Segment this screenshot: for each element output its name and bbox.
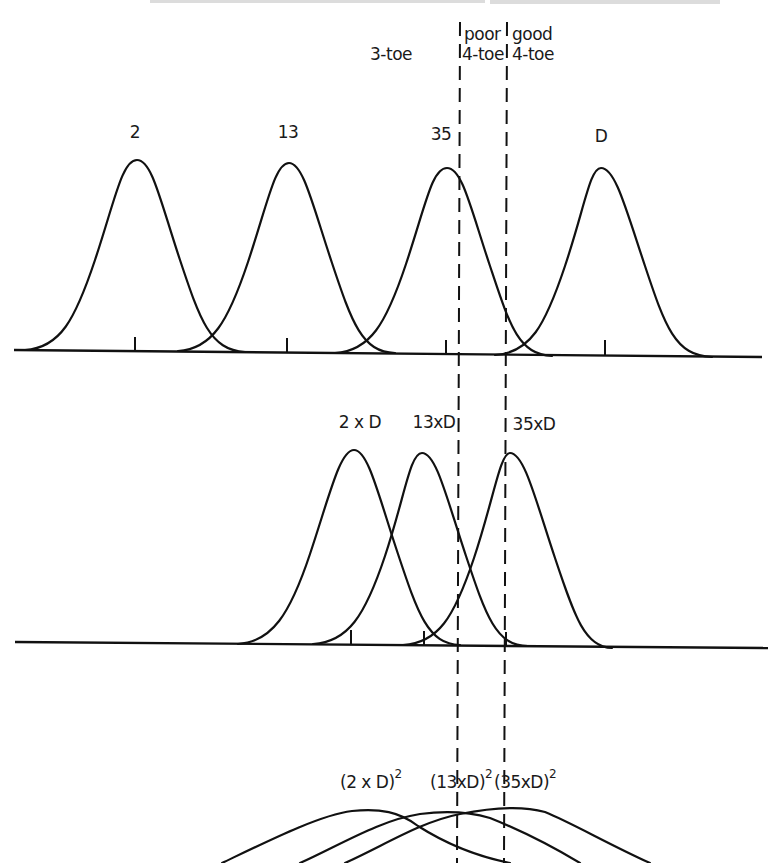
label-good-4-toe: 4-toe	[512, 44, 554, 64]
panel-middle: 2 x D 13xD 35xD	[15, 412, 768, 648]
label-35xD: 35xD	[513, 414, 556, 434]
curve-35xD	[403, 453, 612, 648]
curve-2xD-squared	[222, 810, 510, 863]
label-strain-D: D	[595, 126, 608, 146]
axis-top	[14, 350, 762, 357]
label-good: good	[512, 24, 552, 44]
curve-strain-35	[335, 168, 552, 356]
cropped-caption	[150, 0, 720, 4]
curve-strain-2	[25, 160, 245, 352]
curve-2xD	[238, 450, 460, 645]
threshold-line-2	[504, 22, 507, 863]
label-strain-35: 35	[431, 124, 452, 144]
panel-bottom: (2 x D)2 (13xD)2 (35xD)2	[222, 767, 650, 863]
label-strain-13: 13	[278, 122, 299, 142]
label-3-toe: 3-toe	[370, 44, 412, 64]
label-poor-4-toe: 4-toe	[462, 44, 504, 64]
curve-35xD-squared	[345, 808, 650, 863]
label-13xD: 13xD	[413, 412, 456, 432]
label-13xD-squared: (13xD)2	[430, 767, 492, 792]
threshold-line-1	[457, 22, 460, 863]
curve-strain-13	[178, 163, 395, 353]
label-2xD-squared: (2 x D)2	[340, 767, 402, 792]
label-poor: poor	[464, 24, 501, 44]
axis-middle	[15, 642, 768, 648]
label-2xD: 2 x D	[339, 412, 382, 432]
panel-top: 2 13 35 D	[14, 122, 762, 357]
threshold-labels: 3-toe poor 4-toe good 4-toe	[370, 24, 554, 64]
curve-strain-D	[495, 168, 712, 357]
label-strain-2: 2	[130, 122, 140, 142]
genetics-distribution-figure: 3-toe poor 4-toe good 4-toe 2 13 35 D	[0, 0, 775, 863]
